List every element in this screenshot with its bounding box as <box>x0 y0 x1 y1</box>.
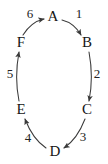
edge-label-2: 2 <box>90 67 104 80</box>
edge-A-to-B <box>62 20 81 35</box>
node-D: D <box>47 144 63 159</box>
node-C: C <box>79 102 95 117</box>
edge-label-4: 4 <box>21 131 35 144</box>
edge-label-1: 1 <box>72 7 86 20</box>
node-A: A <box>45 9 61 24</box>
node-B: B <box>79 35 95 50</box>
edge-label-6: 6 <box>23 7 37 20</box>
cycle-diagram: A B C D E F 1 2 3 4 5 6 <box>0 0 108 164</box>
edge-label-5: 5 <box>3 67 17 80</box>
node-F: F <box>13 35 29 50</box>
edge-F-to-A <box>23 19 44 35</box>
edge-label-3: 3 <box>76 130 90 143</box>
edge-E-to-F <box>17 52 19 101</box>
diagram-canvas <box>0 0 108 164</box>
node-E: E <box>13 102 29 117</box>
